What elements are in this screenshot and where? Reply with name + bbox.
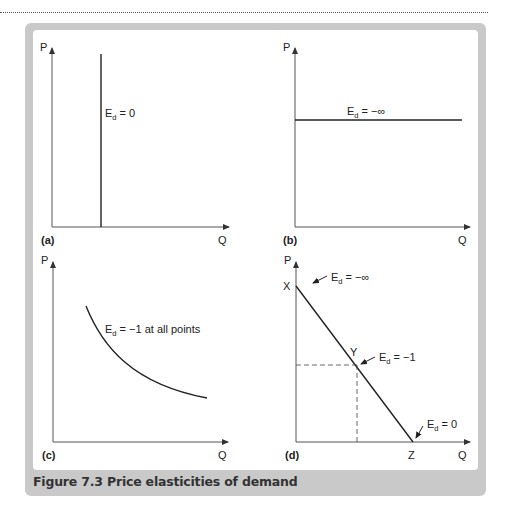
panel-d-annotation-mid: Ed = −1 xyxy=(379,351,416,366)
panel-b-label: (b) xyxy=(283,234,297,246)
panel-d-annotation-bottom: Ed = 0 xyxy=(427,418,457,433)
panel-d-annotation-top: Ed = −∞ xyxy=(331,271,369,286)
panel-a-label: (a) xyxy=(41,234,55,246)
panel-c-x-label: Q xyxy=(218,449,227,461)
panel-d-point-z: Z xyxy=(408,449,415,461)
panel-d-point-y: Y xyxy=(350,346,358,358)
panel-b: P Q (b) Ed = −∞ xyxy=(283,41,470,246)
panel-d-y-label: P xyxy=(284,254,291,266)
panel-c: P Q (c) Ed = −1 at all points xyxy=(41,254,228,461)
elasticity-diagrams: P Q (a) Ed = 0 P Q (b) Ed = −∞ P Q (c) E… xyxy=(0,0,510,521)
panel-d-point-x: X xyxy=(283,280,291,292)
panel-d-label: (d) xyxy=(285,449,299,461)
panel-c-label: (c) xyxy=(42,449,56,461)
panel-a: P Q (a) Ed = 0 xyxy=(40,41,229,246)
panel-b-annotation: Ed = −∞ xyxy=(347,105,385,120)
panel-c-demand-curve xyxy=(86,306,207,398)
panel-c-y-label: P xyxy=(41,254,48,266)
panel-a-y-label: P xyxy=(40,41,47,53)
panel-d: P Q (d) X Y Z Ed = −∞ Ed = −1 Ed = 0 xyxy=(283,254,470,461)
panel-b-x-label: Q xyxy=(458,234,467,246)
panel-d-arrow-top xyxy=(313,276,327,283)
panel-a-x-label: Q xyxy=(218,234,227,246)
panel-d-arrow-bottom xyxy=(416,426,423,438)
panel-d-arrow-mid xyxy=(361,357,375,364)
panel-a-annotation: Ed = 0 xyxy=(105,107,135,122)
panel-d-x-label: Q xyxy=(458,449,467,461)
panel-d-demand-curve xyxy=(296,286,413,442)
panel-c-annotation: Ed = −1 at all points xyxy=(105,323,201,338)
panel-b-y-label: P xyxy=(283,41,290,53)
